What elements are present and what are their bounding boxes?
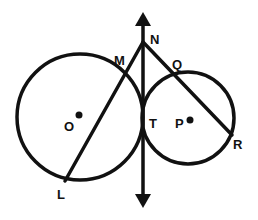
center-p-dot xyxy=(187,117,194,124)
center-o-dot xyxy=(76,112,83,119)
label-p: P xyxy=(175,116,184,131)
arrow-up-icon xyxy=(135,12,151,26)
secant-nl xyxy=(65,42,143,181)
label-r: R xyxy=(233,137,243,152)
label-l: L xyxy=(57,187,65,202)
geometry-diagram: N M Q O T P R L xyxy=(0,0,258,220)
arrow-down-icon xyxy=(135,194,151,208)
label-n: N xyxy=(150,32,159,47)
label-q: Q xyxy=(172,57,182,72)
label-o: O xyxy=(64,119,74,134)
label-m: M xyxy=(114,53,125,68)
label-t: T xyxy=(149,116,157,131)
